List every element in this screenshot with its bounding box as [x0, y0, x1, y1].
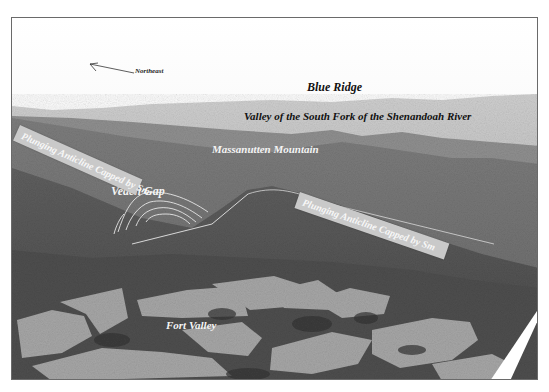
- landscape-photo: [12, 18, 538, 380]
- fort-valley-label: Fort Valley: [166, 320, 216, 331]
- northeast-label: Northeast: [135, 67, 163, 75]
- valley-south-fork-label: Valley of the South Fork of the Shenando…: [244, 111, 471, 122]
- photo-frame: [11, 17, 538, 380]
- annotated-aerial-photo: Northeast Blue Ridge Valley of the South…: [0, 0, 549, 392]
- massanutten-mountain-label: Massanutten Mountain: [212, 144, 319, 155]
- blue-ridge-label: Blue Ridge: [307, 81, 362, 93]
